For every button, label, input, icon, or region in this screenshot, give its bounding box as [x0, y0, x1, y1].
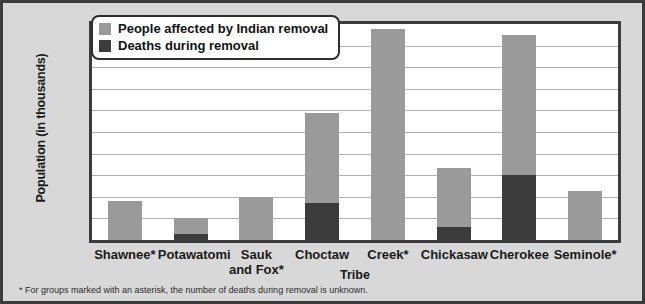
bar-segment-deaths[interactable] — [174, 234, 208, 240]
gridline — [92, 218, 618, 219]
x-tick-label: Choctaw — [289, 247, 355, 262]
gridline — [92, 197, 618, 198]
legend-item-label: Deaths during removal — [118, 38, 259, 53]
legend-swatch-icon — [99, 40, 111, 52]
bar-segment-people-affected[interactable] — [371, 29, 405, 240]
x-tick-label-line: Shawnee* — [94, 247, 155, 262]
gridline — [92, 132, 618, 133]
legend-item-deaths: Deaths during removal — [99, 37, 328, 54]
x-tick-label: Chickasaw — [421, 247, 487, 262]
x-tick-label: Creek* — [355, 247, 421, 262]
bar-group[interactable] — [502, 24, 536, 240]
bar-segment-people-affected[interactable] — [108, 201, 142, 240]
gridline — [92, 175, 618, 176]
x-tick-label-line: and Fox* — [224, 262, 290, 277]
bar-group[interactable] — [568, 24, 602, 240]
x-tick-label: Seminole* — [552, 247, 618, 262]
bar-group[interactable] — [371, 24, 405, 240]
gridline — [92, 110, 618, 111]
x-tick-label-line: Potawatomi — [158, 247, 231, 262]
legend-item-people-affected: People affected by Indian removal — [99, 20, 328, 37]
x-tick-label-line: Chickasaw — [421, 247, 488, 262]
legend-item-label: People affected by Indian removal — [118, 21, 328, 36]
legend-swatch-icon — [99, 23, 111, 35]
bar-segment-people-affected[interactable] — [568, 191, 602, 240]
chart-legend: People affected by Indian removal Deaths… — [91, 15, 340, 60]
bar-group[interactable] — [437, 24, 471, 240]
x-tick-label: Shawnee* — [92, 247, 158, 262]
gridline — [92, 154, 618, 155]
x-tick-label-line: Seminole* — [554, 247, 617, 262]
y-axis-title: Population (in thousands) — [34, 28, 48, 228]
x-axis-title: Tribe — [89, 268, 621, 282]
x-tick-label-line: Sauk — [241, 247, 272, 262]
gridline — [92, 89, 618, 90]
x-tick-label: Saukand Fox* — [224, 247, 290, 277]
bar-segment-deaths[interactable] — [502, 175, 536, 240]
bar-segment-deaths[interactable] — [305, 203, 339, 240]
chart-footnote: * For groups marked with an asterisk, th… — [19, 285, 368, 295]
chart-figure: Population (in thousands) 20181614121086… — [0, 0, 645, 304]
x-tick-label-line: Cherokee — [490, 247, 549, 262]
x-tick-label: Cherokee — [487, 247, 553, 262]
gridline — [92, 67, 618, 68]
x-tick-label-line: Choctaw — [295, 247, 349, 262]
x-tick-label: Potawatomi — [158, 247, 224, 262]
bar-segment-deaths[interactable] — [437, 227, 471, 240]
bar-segment-people-affected[interactable] — [239, 197, 273, 240]
x-tick-label-line: Creek* — [367, 247, 408, 262]
